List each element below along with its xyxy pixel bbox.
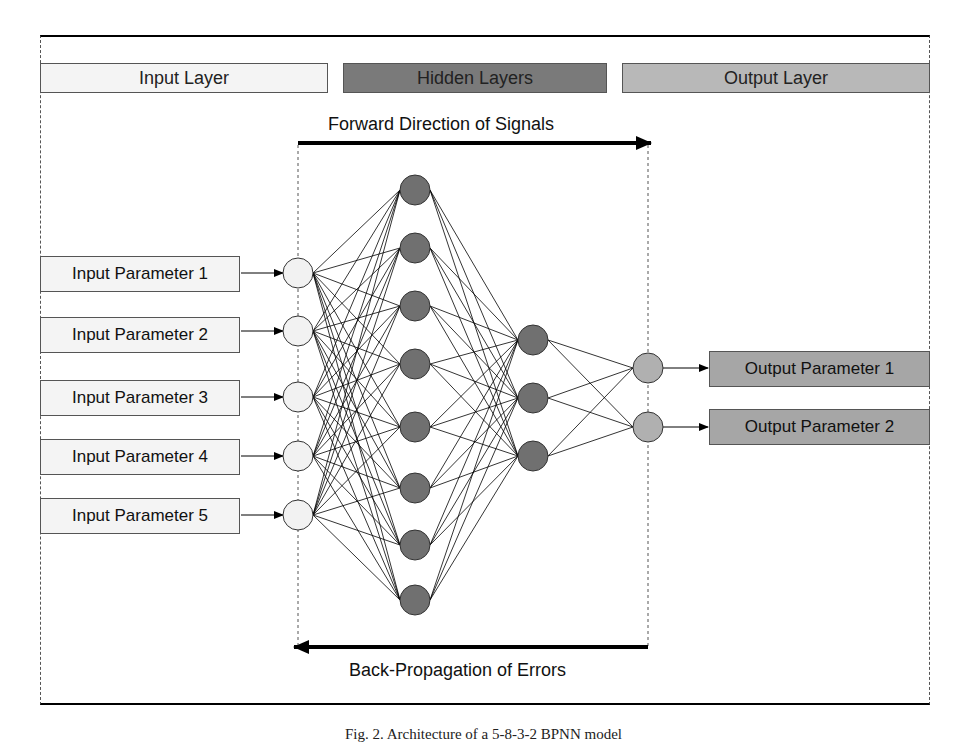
input-parameter-label: Input Parameter 1 (72, 264, 208, 284)
hidden2-node (518, 441, 548, 471)
input-node (283, 316, 313, 346)
input-parameter-5-box: Input Parameter 5 (40, 498, 240, 534)
connection-edge (548, 368, 633, 398)
input-parameter-1-box: Input Parameter 1 (40, 256, 240, 292)
input-node (283, 382, 313, 412)
connection-edge (430, 340, 518, 364)
connection-edge (313, 248, 400, 515)
input-node (283, 500, 313, 530)
input-parameter-2-box: Input Parameter 2 (40, 317, 240, 353)
input-parameter-3-box: Input Parameter 3 (40, 380, 240, 416)
input-parameter-4-box: Input Parameter 4 (40, 439, 240, 475)
connection-edge (313, 397, 400, 427)
connection-edge (430, 398, 518, 427)
hidden1-node (400, 349, 430, 379)
connection-edge (430, 456, 518, 600)
input-parameter-label: Input Parameter 3 (72, 388, 208, 408)
hidden2-node (518, 383, 548, 413)
output-parameter-label: Output Parameter 1 (745, 359, 894, 379)
forward-direction-label: Forward Direction of Signals (328, 114, 554, 135)
hidden1-node (400, 175, 430, 205)
connection-edge (313, 190, 400, 397)
connection-edge (430, 190, 518, 340)
connection-edge (548, 427, 633, 456)
input-parameter-label: Input Parameter 2 (72, 325, 208, 345)
connection-edge (313, 331, 400, 364)
hidden1-node (400, 412, 430, 442)
hidden1-node (400, 291, 430, 321)
input-node (283, 441, 313, 471)
input-node (283, 258, 313, 288)
connection-edge (430, 364, 518, 398)
connection-edge (430, 306, 518, 340)
input-parameter-label: Input Parameter 5 (72, 506, 208, 526)
connection-edge (430, 248, 518, 340)
connection-edge (313, 456, 400, 545)
input-parameter-label: Input Parameter 4 (72, 447, 208, 467)
connection-edge (313, 331, 400, 545)
hidden2-node (518, 325, 548, 355)
hidden1-node (400, 530, 430, 560)
connection-edge (548, 368, 633, 456)
output-parameter-2-box: Output Parameter 2 (709, 409, 930, 445)
connection-edge (313, 515, 400, 545)
hidden1-node (400, 473, 430, 503)
connection-edge (313, 427, 400, 456)
connection-edge (313, 397, 400, 600)
back-propagation-label: Back-Propagation of Errors (349, 660, 566, 681)
connection-edge (548, 340, 633, 368)
output-parameter-label: Output Parameter 2 (745, 417, 894, 437)
figure-caption: Fig. 2. Architecture of a 5-8-3-2 BPNN m… (0, 726, 967, 743)
connection-edge (430, 398, 518, 545)
connection-edge (430, 398, 518, 600)
connection-edge (430, 340, 518, 600)
output-parameter-1-box: Output Parameter 1 (709, 351, 930, 387)
output-node (633, 353, 663, 383)
output-node (633, 412, 663, 442)
hidden1-node (400, 233, 430, 263)
connection-edge (313, 331, 400, 427)
connection-edge (548, 340, 633, 427)
hidden1-node (400, 585, 430, 615)
